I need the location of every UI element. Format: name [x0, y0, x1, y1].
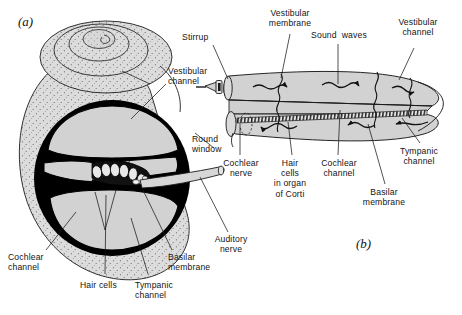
label-tympanic-channel-b: Tympanic channel — [386, 146, 452, 166]
label-hair-cells-organ-of-corti: Hair cells in organ of Corti — [263, 158, 317, 199]
panel-a-caption: (a) — [18, 14, 33, 30]
label-hair-cells-a: Hair cells — [80, 280, 117, 290]
label-sound-waves: Sound waves — [300, 30, 378, 40]
label-auditory-nerve: Auditory nerve — [202, 234, 260, 254]
label-vestibular-membrane-b: Vestibular membrane — [254, 8, 326, 28]
label-basilar-membrane-a: Basilar membrane — [168, 252, 210, 272]
label-vestibular-channel-b: Vestibular channel — [382, 17, 454, 37]
label-cochlear-channel-a: Cochlear channel — [8, 252, 44, 272]
cochlea-figure: (a) Vestibular channel Round window Audi… — [0, 0, 462, 315]
label-cochlear-nerve: Cochlear nerve — [212, 158, 270, 178]
label-cochlear-channel-b: Cochlear channel — [310, 158, 368, 178]
label-vestibular-channel-a: Vestibular channel — [168, 66, 207, 86]
label-tympanic-channel-a: Tympanic channel — [135, 280, 173, 300]
label-round-window: Round window — [192, 134, 222, 154]
panel-b-caption: (b) — [356, 236, 371, 252]
label-basilar-membrane-b: Basilar membrane — [352, 187, 416, 207]
label-stirrup: Stirrup — [182, 32, 208, 42]
